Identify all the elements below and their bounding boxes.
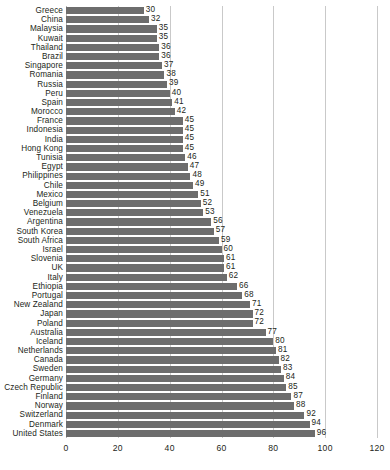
category-label: France [37,116,63,125]
bar-value-label: 49 [195,179,205,189]
category-label: Canada [34,355,63,364]
bar-value-label: 45 [185,143,195,153]
bar [66,25,157,32]
category-label: Belgium [33,199,63,208]
bar-row: 40 [66,89,377,98]
category-label: China [41,15,63,24]
bar-value-label: 51 [200,189,210,199]
bar [66,90,170,97]
category-label: Singapore [25,61,63,70]
bar-rows: 3032353536363738394041424545454546474849… [66,6,377,438]
bar [66,7,144,14]
bar [66,412,304,419]
category-label: Peru [45,89,63,98]
bar [66,62,162,69]
category-label: Egypt [42,162,63,171]
bar-row: 60 [66,245,377,254]
bar-value-label: 68 [244,290,254,300]
bar-row: 45 [66,116,377,125]
category-label: Norway [35,401,63,410]
bar-value-label: 39 [169,78,179,88]
category-label: Russia [37,80,63,89]
category-label: Israel [42,245,63,254]
category-label: Kuwait [38,34,63,43]
bar-row: 94 [66,420,377,429]
bar [66,191,198,198]
bar [66,136,183,143]
bar-value-label: 47 [190,161,200,171]
xtick-label-100: 100 [318,443,333,453]
bar [66,393,291,400]
category-label: Greece [36,6,63,15]
bar [66,274,227,281]
bar [66,421,310,428]
category-label: Mexico [36,190,63,199]
bar-row: 62 [66,273,377,282]
bar [66,81,167,88]
bar [66,44,159,51]
bar-value-label: 52 [203,198,213,208]
bar [66,264,224,271]
xtick-label-120: 120 [369,443,384,453]
xtick-label-40: 40 [165,443,175,453]
bar-value-label: 96 [317,428,327,438]
bar [66,117,183,124]
bar-value-label: 46 [187,152,197,162]
category-label: Ethiopia [33,282,63,291]
category-label: Denmark [29,420,63,429]
bar [66,53,159,60]
bar-value-label: 62 [229,271,239,281]
bar [66,182,193,189]
bar-row: 30 [66,6,377,15]
bar-row: 36 [66,52,377,61]
bar-value-label: 32 [151,14,161,24]
bar [66,255,224,262]
bar-value-label: 87 [293,391,303,401]
category-label: South Korea [16,227,63,236]
xtick-label-60: 60 [216,443,226,453]
bar-row: 88 [66,401,377,410]
bar [66,347,276,354]
bar-value-label: 85 [288,382,298,392]
value-axis: 020406080100120 [66,440,377,460]
category-label: India [45,135,63,144]
bar [66,200,201,207]
category-label: Brazil [42,52,63,61]
bar-row: 66 [66,282,377,291]
bar-value-label: 38 [166,69,176,79]
bar-value-label: 40 [172,88,182,98]
bar-row: 42 [66,107,377,116]
bar [66,292,242,299]
bar-value-label: 36 [161,42,171,52]
bar-row: 32 [66,15,377,24]
bar-value-label: 71 [252,299,262,309]
bar [66,366,281,373]
bar [66,71,164,78]
bar-value-label: 41 [174,97,184,107]
category-label: Germany [29,374,63,383]
bar-row: 38 [66,70,377,79]
bar-value-label: 88 [296,400,306,410]
category-label: Morocco [31,107,63,116]
bar [66,218,211,225]
category-label: Philippines [22,171,63,180]
bar [66,283,237,290]
bar [66,108,175,115]
bar-row: 36 [66,43,377,52]
bar-value-label: 36 [161,51,171,61]
category-label: Netherlands [18,346,63,355]
bar [66,375,284,382]
bar-row: 82 [66,355,377,364]
bar-row: 45 [66,135,377,144]
bar-value-label: 82 [281,354,291,364]
category-label: New Zealand [14,300,63,309]
bar-row: 35 [66,24,377,33]
bar-value-label: 45 [185,124,195,134]
gridline-120 [377,6,378,438]
bar [66,384,286,391]
bar-value-label: 30 [146,5,156,15]
bar-value-label: 53 [205,207,215,217]
bar-row: 68 [66,291,377,300]
category-label: Tunisia [36,153,63,162]
bar-value-label: 35 [159,32,169,42]
